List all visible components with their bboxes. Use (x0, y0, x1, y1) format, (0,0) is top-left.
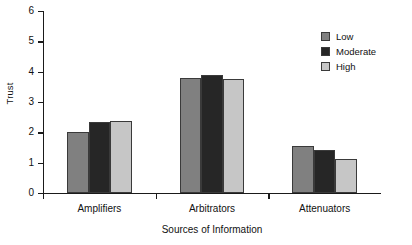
y-tick-label: 6 (16, 6, 34, 16)
bar-amplifiers-high (110, 121, 132, 193)
y-tick-label: 2 (16, 127, 34, 137)
legend-swatch-icon (321, 32, 330, 41)
legend-swatch-icon (321, 62, 330, 71)
legend-item-moderate: Moderate (321, 44, 376, 59)
y-tick-mark (38, 163, 43, 164)
y-tick-mark (38, 132, 43, 133)
x-tick-mark (268, 194, 269, 199)
x-tick-mark (156, 194, 157, 199)
bar-attenuators-low (292, 146, 314, 193)
legend-label: High (336, 62, 356, 72)
y-tick-label: 5 (16, 36, 34, 46)
y-axis-line (43, 11, 44, 194)
bar-amplifiers-moderate (89, 122, 111, 193)
y-tick-label: 1 (16, 158, 34, 168)
x-axis-title: Sources of Information (43, 224, 381, 235)
y-tick-mark (38, 72, 43, 73)
legend-label: Moderate (336, 47, 376, 57)
legend-item-low: Low (321, 29, 376, 44)
legend: Low Moderate High (321, 29, 376, 74)
x-tick-label: Attenuators (270, 203, 380, 214)
y-tick-label: 4 (16, 67, 34, 77)
bar-arbitrators-low (180, 78, 202, 193)
y-tick-label: 3 (16, 97, 34, 107)
bar-arbitrators-moderate (201, 75, 223, 193)
x-axis-line (43, 193, 381, 194)
x-tick-label: Arbitrators (157, 203, 267, 214)
x-tick-label: Amplifiers (44, 203, 154, 214)
x-tick-mark (43, 194, 44, 199)
bar-chart: Trust 6 5 4 3 2 1 0 AmplifiersArbitrator… (0, 0, 412, 245)
legend-item-high: High (321, 59, 376, 74)
y-tick-mark (38, 11, 43, 12)
bar-amplifiers-low (67, 132, 89, 193)
bar-attenuators-moderate (314, 150, 336, 193)
bar-attenuators-high (335, 159, 357, 193)
y-axis-title: Trust (4, 69, 15, 119)
legend-label: Low (336, 32, 353, 42)
y-tick-mark (38, 41, 43, 42)
y-tick-mark (38, 102, 43, 103)
y-tick-label: 0 (16, 188, 34, 198)
bar-arbitrators-high (223, 79, 245, 193)
legend-swatch-icon (321, 47, 330, 56)
